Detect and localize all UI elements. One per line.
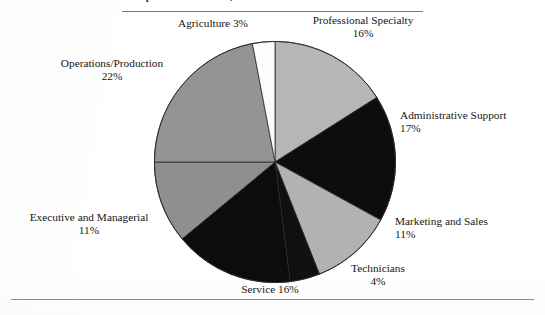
slice-label-agriculture: Agriculture 3%	[148, 17, 278, 30]
slice-label-marketing-and-sales-pct: 11%	[395, 228, 535, 241]
slice-label-operations-production-pct: 22%	[22, 70, 202, 83]
slice-label-technicians-name: Technicians	[351, 262, 405, 274]
slice-label-administrative-support: Administrative Support 17%	[400, 109, 545, 136]
slice-label-executive-and-managerial: Executive and Managerial 11%	[8, 211, 170, 238]
slice-label-executive-and-managerial-pct: 11%	[8, 224, 170, 237]
slice-label-executive-and-managerial-name: Executive and Managerial	[30, 211, 149, 223]
slice-label-professional-specialty-pct: 16%	[288, 27, 438, 40]
slice-label-service: Service 16%	[207, 283, 333, 296]
slice-label-marketing-and-sales-name: Marketing and Sales	[395, 215, 488, 227]
slice-label-operations-production: Operations/Production 22%	[22, 57, 202, 84]
slice-label-administrative-support-name: Administrative Support	[400, 109, 506, 121]
slice-label-service-text: Service 16%	[241, 283, 298, 295]
slice-label-professional-specialty: Professional Specialty 16%	[288, 14, 438, 41]
slice-label-operations-production-name: Operations/Production	[61, 57, 163, 69]
title-rule-top	[122, 11, 423, 12]
slice-label-agriculture-text: Agriculture 3%	[178, 17, 248, 29]
figure-rule-bottom	[11, 299, 534, 300]
slice-label-marketing-and-sales: Marketing and Sales 11%	[395, 215, 535, 242]
figure-title: Occupational Structure, Mexico	[122, 0, 422, 3]
figure-page: Occupational Structure, Mexico Agricultu…	[0, 0, 545, 315]
slice-label-administrative-support-pct: 17%	[400, 122, 545, 135]
slice-label-technicians-pct: 4%	[330, 275, 426, 288]
slice-label-professional-specialty-name: Professional Specialty	[313, 14, 414, 26]
slice-label-technicians: Technicians 4%	[330, 262, 426, 289]
